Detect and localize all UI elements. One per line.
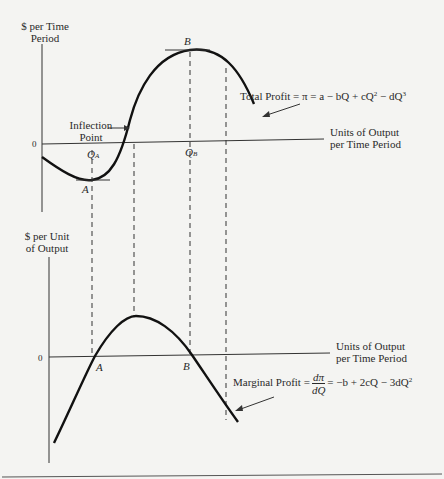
- qb-label: QB: [185, 146, 197, 160]
- point-b-label: B: [184, 35, 191, 47]
- arrowhead: [235, 405, 243, 411]
- top-y-axis-label: $ per Time Period: [10, 20, 80, 44]
- marginal-profit-arrow: [238, 397, 274, 410]
- top-x-axis-label: Units of Output per Time Period: [330, 126, 401, 150]
- bottom-point-a-label: A: [96, 361, 103, 373]
- marginal-profit-curve: [54, 316, 238, 443]
- bottom-y-axis-label: $ per Unit of Output: [14, 230, 80, 254]
- qa-label: QA: [87, 148, 99, 162]
- marginal-profit-equation: Marginal Profit =dπdQ= −b + 2cQ − 3dQ2: [233, 371, 412, 396]
- derivative-fraction: dπdQ: [312, 371, 325, 396]
- bottom-zero-label: 0: [38, 352, 43, 364]
- bottom-x-axis-label: Units of Output per Time Period: [336, 340, 407, 364]
- bottom-point-b-label: B: [183, 360, 190, 372]
- point-a-label: A: [82, 183, 89, 195]
- total-profit-curve: [42, 50, 254, 181]
- total-profit-equation: Total Profit = π = a − bQ + cQ2 − dQ3: [240, 90, 406, 102]
- bottom-rule: [2, 474, 442, 477]
- top-zero-label: 0: [32, 138, 37, 150]
- inflection-point-label: Inflection Point: [68, 119, 114, 143]
- arrowhead: [262, 111, 270, 117]
